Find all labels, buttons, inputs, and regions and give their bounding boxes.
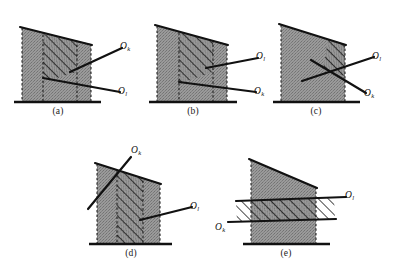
- panel-e-label-ol: Ol: [345, 190, 354, 200]
- panel-d-label-ol: Ol: [190, 201, 199, 211]
- panel-caption-e: (e): [264, 248, 308, 258]
- panel-e-label-ok: Ok: [215, 222, 225, 232]
- panel-caption-b: (b): [171, 106, 215, 116]
- panel-caption-c: (c): [294, 106, 338, 116]
- panel-caption-a: (a): [36, 106, 80, 116]
- panel-c-label-ok: Ok: [364, 88, 374, 98]
- panel-d-hatch-fill: [117, 170, 143, 243]
- panel-d-label-ok: Ok: [131, 145, 141, 155]
- panel-c-label-ol: Ol: [372, 51, 381, 61]
- panel-caption-d: (d): [109, 248, 153, 258]
- panel-b-label-ol: Ol: [256, 51, 265, 61]
- figure-canvas: [0, 0, 398, 275]
- panel-a-label-ok: Ok: [120, 41, 130, 51]
- panel-a-label-ol: Ol: [118, 86, 127, 96]
- panel-b-label-ok: Ok: [254, 86, 264, 96]
